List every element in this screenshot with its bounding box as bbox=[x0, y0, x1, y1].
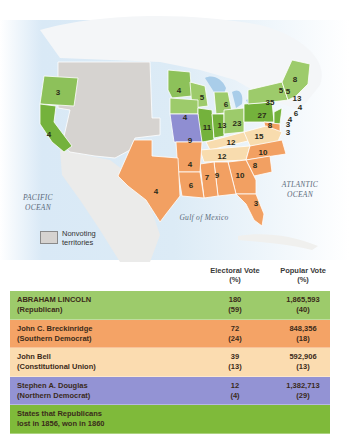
nonvoting-label: Nonvoting territories bbox=[62, 230, 122, 247]
table-row-bell: John Bell (Constitutional Union) 39 (13)… bbox=[10, 348, 330, 377]
votes-alabama: 9 bbox=[215, 171, 220, 180]
votes-new-hampshire: 5 bbox=[286, 87, 291, 96]
election-results-table: Electoral Vote (%) Popular Vote (%) ABRA… bbox=[10, 264, 330, 434]
votes-oregon: 3 bbox=[56, 88, 61, 97]
candidate-name: Stephen A. Douglas (Northern Democrat) bbox=[17, 381, 90, 401]
popular-vote-header: Popular Vote (%) bbox=[268, 266, 338, 284]
votes-florida: 3 bbox=[254, 199, 259, 208]
votes-ohio: 23 bbox=[233, 119, 242, 128]
pacific-ocean-label-2: OCEAN bbox=[25, 203, 52, 212]
votes-vermont: 5 bbox=[279, 86, 284, 95]
map-legend: Nonvoting territories bbox=[40, 230, 122, 247]
votes-wisconsin: 5 bbox=[200, 93, 205, 102]
electoral-vote: 180 (59) bbox=[200, 295, 270, 315]
votes-michigan: 6 bbox=[224, 100, 229, 109]
votes-virginia: 15 bbox=[255, 132, 264, 141]
votes-maine: 8 bbox=[293, 75, 298, 84]
flipped-states-label: States that Republicans lost in 1856, wo… bbox=[17, 409, 105, 429]
gulf-of-mexico-label: Gulf of Mexico bbox=[179, 213, 228, 222]
election-map-1860: 3 4 4 5 6 4 11 13 23 27 35 8 5 5 13 4 6 … bbox=[0, 0, 349, 262]
votes-massachusetts: 13 bbox=[293, 94, 302, 103]
table-row-lincoln: ABRAHAM LINCOLN (Republican) 180 (59) 1,… bbox=[10, 291, 330, 320]
table-row-flipped-states: States that Republicans lost in 1856, wo… bbox=[10, 405, 330, 434]
votes-connecticut: 6 bbox=[294, 109, 299, 118]
popular-vote: 848,356 (18) bbox=[268, 324, 338, 344]
votes-texas: 4 bbox=[154, 187, 159, 196]
votes-north-carolina: 10 bbox=[259, 148, 268, 157]
table-row-breckinridge: John C. Breckinridge (Southern Democrat)… bbox=[10, 320, 330, 349]
popular-vote: 592,906 (13) bbox=[268, 352, 338, 372]
votes-rhode-island: 4 bbox=[298, 103, 303, 112]
electoral-vote-header: Electoral Vote (%) bbox=[200, 266, 270, 284]
votes-new-york: 35 bbox=[266, 98, 275, 107]
candidate-name: John Bell (Constitutional Union) bbox=[17, 352, 96, 372]
atlantic-ocean-label-2: OCEAN bbox=[287, 190, 314, 199]
votes-louisiana: 6 bbox=[189, 181, 194, 190]
votes-missouri: 9 bbox=[188, 136, 193, 145]
candidate-name: John C. Breckinridge (Southern Democrat) bbox=[17, 324, 92, 344]
candidate-name: ABRAHAM LINCOLN (Republican) bbox=[17, 295, 91, 315]
electoral-vote: 72 (24) bbox=[200, 324, 270, 344]
popular-vote: 1,865,593 (40) bbox=[268, 295, 338, 315]
votes-maryland-2: 3 bbox=[286, 128, 291, 137]
votes-kentucky: 12 bbox=[227, 138, 236, 147]
votes-minnesota: 4 bbox=[177, 86, 182, 95]
popular-vote: 1,382,713 (29) bbox=[268, 381, 338, 401]
votes-tennessee: 12 bbox=[218, 152, 227, 161]
atlantic-ocean-label-1: ATLANTIC bbox=[281, 180, 319, 189]
table-header: Electoral Vote (%) Popular Vote (%) bbox=[10, 264, 330, 291]
votes-south-carolina: 8 bbox=[253, 161, 258, 170]
votes-georgia: 10 bbox=[236, 171, 245, 180]
electoral-vote: 12 (4) bbox=[200, 381, 270, 401]
electoral-vote: 39 (13) bbox=[200, 352, 270, 372]
votes-mississippi: 7 bbox=[205, 173, 210, 182]
state-iowa bbox=[170, 98, 198, 114]
votes-california: 4 bbox=[47, 130, 52, 139]
votes-arkansas: 4 bbox=[188, 160, 193, 169]
votes-maryland: 8 bbox=[268, 121, 273, 130]
nonvoting-swatch bbox=[40, 231, 58, 244]
table-row-douglas: Stephen A. Douglas (Northern Democrat) 1… bbox=[10, 377, 330, 406]
votes-illinois: 11 bbox=[203, 123, 212, 132]
votes-pennsylvania: 27 bbox=[258, 111, 267, 120]
votes-indiana: 13 bbox=[218, 121, 227, 130]
pacific-ocean-label-1: PACIFIC bbox=[22, 193, 54, 202]
votes-iowa: 4 bbox=[183, 113, 188, 122]
